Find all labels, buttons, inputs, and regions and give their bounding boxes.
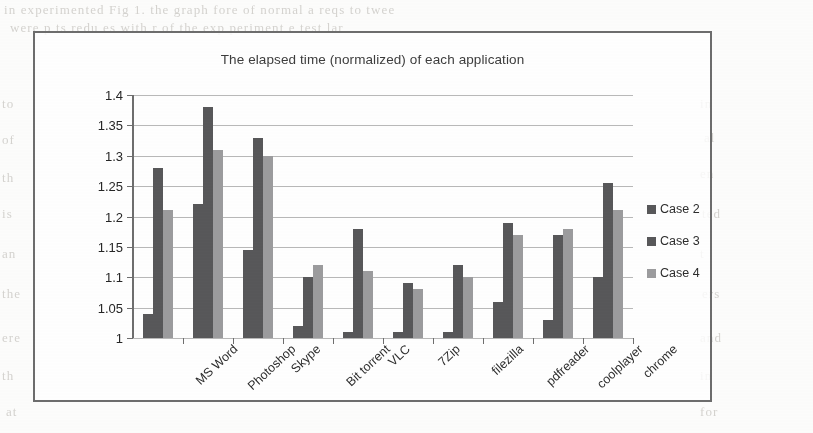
bar[interactable]	[163, 210, 173, 338]
bar[interactable]	[313, 265, 323, 338]
bar[interactable]	[213, 150, 223, 338]
bar[interactable]	[203, 107, 213, 338]
bar[interactable]	[303, 277, 313, 338]
page-bleed-text: is	[2, 206, 13, 222]
bar-group	[183, 95, 233, 338]
chart-figure: The elapsed time (normalized) of each ap…	[33, 31, 712, 402]
scanned-page: in experimented Fig 1. the graph fore of…	[0, 0, 813, 433]
y-axis-tick-label: 1.4	[105, 88, 123, 103]
page-bleed-text: for	[700, 404, 718, 420]
x-axis-labels: MS WordPhotoshopSkypeBit torrentVLC7Zipf…	[133, 338, 633, 404]
y-axis-tick-label: 1.1	[105, 270, 123, 285]
y-axis-tick-label: 1.25	[98, 179, 123, 194]
page-bleed-text: at	[6, 404, 18, 420]
bar[interactable]	[453, 265, 463, 338]
legend-label: Case 3	[660, 234, 700, 248]
x-axis-category-label: 7Zip	[436, 342, 463, 369]
y-axis-tick-label: 1.3	[105, 148, 123, 163]
bar[interactable]	[293, 326, 303, 338]
page-bleed-text: in experimented Fig 1. the graph fore of…	[4, 2, 395, 18]
legend-item[interactable]: Case 2	[647, 193, 711, 225]
bar-group	[483, 95, 533, 338]
x-axis-category-label: pdfreader	[543, 342, 592, 389]
legend-item[interactable]: Case 4	[647, 257, 711, 289]
page-bleed-text: of	[2, 132, 15, 148]
bar[interactable]	[613, 210, 623, 338]
legend-swatch-icon	[647, 269, 656, 278]
bar[interactable]	[463, 277, 473, 338]
legend-item[interactable]: Case 3	[647, 225, 711, 257]
legend-label: Case 4	[660, 266, 700, 280]
bar[interactable]	[403, 283, 413, 338]
y-axis-labels: 11.051.11.151.21.251.31.351.4	[71, 95, 123, 338]
page-bleed-text: to	[2, 96, 14, 112]
bar[interactable]	[553, 235, 563, 338]
bar[interactable]	[143, 314, 153, 338]
y-axis-tick-label: 1	[116, 331, 123, 346]
y-axis-tick-label: 1.2	[105, 209, 123, 224]
bar-group	[533, 95, 583, 338]
bar-group	[433, 95, 483, 338]
bar[interactable]	[243, 250, 253, 338]
bar[interactable]	[353, 229, 363, 338]
page-bleed-text: an	[2, 246, 16, 262]
bar[interactable]	[363, 271, 373, 338]
page-bleed-text: th	[2, 170, 14, 186]
bar[interactable]	[563, 229, 573, 338]
plot-area	[133, 95, 633, 338]
bar-group	[133, 95, 183, 338]
y-axis-tick-label: 1.05	[98, 300, 123, 315]
page-bleed-text: ere	[2, 330, 21, 346]
bar-group	[283, 95, 333, 338]
bar-group	[233, 95, 283, 338]
chart-legend: Case 2Case 3Case 4	[647, 193, 711, 289]
bar[interactable]	[493, 302, 503, 338]
x-axis-category-label: filezilla	[489, 342, 526, 378]
x-axis-category-label: coolplayer	[594, 342, 645, 391]
page-bleed-text: the	[2, 286, 21, 302]
y-axis-tick-label: 1.35	[98, 118, 123, 133]
y-axis-line	[132, 95, 134, 338]
bar[interactable]	[513, 235, 523, 338]
bar[interactable]	[263, 156, 273, 338]
bar[interactable]	[253, 138, 263, 338]
bar[interactable]	[593, 277, 603, 338]
plot-inner	[133, 95, 633, 338]
bar-group	[333, 95, 383, 338]
x-axis-category-label: VLC	[386, 342, 413, 369]
legend-swatch-icon	[647, 205, 656, 214]
x-axis-category-label: chrome	[640, 342, 680, 381]
legend-label: Case 2	[660, 202, 700, 216]
bar[interactable]	[543, 320, 553, 338]
bar[interactable]	[413, 289, 423, 338]
bar-group	[383, 95, 433, 338]
bar[interactable]	[603, 183, 613, 338]
bar[interactable]	[193, 204, 203, 338]
bar[interactable]	[503, 223, 513, 338]
legend-swatch-icon	[647, 237, 656, 246]
y-axis-tick-label: 1.15	[98, 239, 123, 254]
bar[interactable]	[153, 168, 163, 338]
chart-title: The elapsed time (normalized) of each ap…	[35, 52, 710, 67]
bar-group	[583, 95, 633, 338]
x-axis-category-label: MS Word	[193, 342, 240, 388]
page-bleed-text: th	[2, 368, 14, 384]
x-axis-category-label: Bit torrent	[344, 342, 393, 389]
